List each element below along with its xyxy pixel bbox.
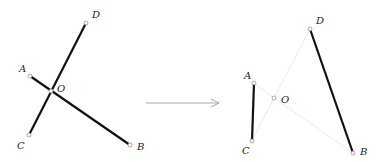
segment-DB — [310, 29, 353, 153]
diagram-svg: ABCDOABCDO — [0, 0, 381, 162]
point-B — [351, 151, 355, 155]
label-B: B — [359, 146, 367, 157]
point-A — [28, 74, 32, 78]
point-D — [84, 21, 88, 25]
point-A — [252, 81, 256, 85]
transform-arrow — [146, 99, 219, 107]
label-B: B — [136, 141, 144, 152]
label-A: A — [243, 70, 251, 81]
segment-AC — [252, 83, 254, 141]
label-O: O — [57, 83, 65, 94]
segment-OD — [274, 29, 310, 98]
label-A: A — [18, 63, 26, 74]
label-C: C — [17, 140, 25, 151]
segment-CD — [29, 23, 86, 135]
point-C — [250, 139, 254, 143]
point-O — [49, 89, 53, 93]
right-figure: ABCDO — [242, 15, 367, 157]
segment-AO — [254, 83, 274, 98]
segment-CO — [252, 98, 274, 141]
label-O: O — [281, 94, 289, 105]
point-D — [308, 27, 312, 31]
segment-AB — [30, 76, 130, 145]
point-C — [27, 133, 31, 137]
geometry-diagram: ABCDOABCDO — [0, 0, 381, 162]
label-D: D — [315, 15, 324, 26]
point-O — [272, 96, 276, 100]
label-C: C — [242, 145, 250, 156]
label-D: D — [91, 9, 100, 20]
point-B — [128, 143, 132, 147]
left-figure: ABCDO — [17, 9, 144, 152]
segment-OB — [274, 98, 353, 153]
